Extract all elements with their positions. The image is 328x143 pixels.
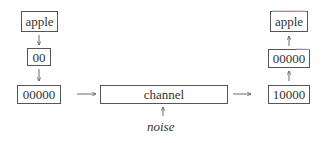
noise-label: noise xyxy=(147,120,174,133)
received-box: 10000 xyxy=(268,85,310,104)
codeword-label: 00 xyxy=(33,51,46,64)
encoded-label: 00000 xyxy=(23,88,56,101)
decoded-codeword-label: 00000 xyxy=(273,52,306,65)
channel-box: channel xyxy=(100,85,228,104)
received-label: 10000 xyxy=(273,88,306,101)
channel-label: channel xyxy=(144,88,184,101)
output-box: apple xyxy=(270,11,308,32)
source-label: apple xyxy=(25,15,53,28)
color-artifact xyxy=(296,48,310,50)
color-artifact xyxy=(272,10,306,12)
codeword-box: 00 xyxy=(27,48,51,66)
decoded-codeword-box: 00000 xyxy=(268,49,310,68)
output-label: apple xyxy=(275,15,303,28)
encoded-box: 00000 xyxy=(17,85,61,104)
source-box: apple xyxy=(21,11,58,32)
